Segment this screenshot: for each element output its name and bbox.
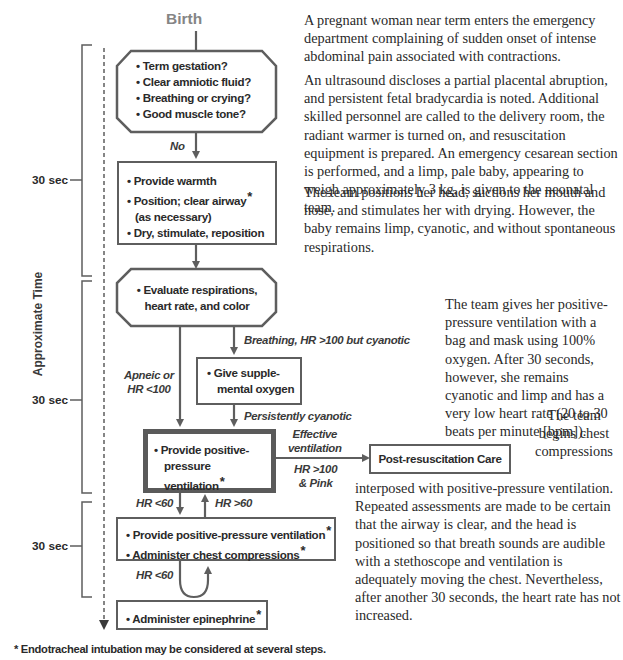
- no-label: No: [170, 139, 185, 153]
- case-paragraph-1: A pregnant woman near term enters the em…: [304, 11, 620, 66]
- case-paragraph-5: interposed with positive-pressure ventil…: [355, 479, 621, 625]
- assessment-item: • Breathing or crying?: [136, 90, 251, 106]
- effective-ventilation-label: Effective ventilation: [288, 427, 342, 455]
- footnote: * Endotracheal intubation may be conside…: [14, 643, 326, 655]
- ppv-compressions-box: • Provide positive-pressure ventilation*…: [116, 517, 336, 561]
- assessment-item: • Good muscle tone?: [136, 106, 251, 122]
- post-resuscitation-care-box: Post-resuscitation Care: [369, 444, 511, 474]
- assessment-item: • Clear amniotic fluid?: [136, 74, 251, 90]
- asterisk-icon: *: [247, 189, 252, 204]
- step-dry-stimulate: • Dry, stimulate, reposition: [127, 225, 275, 241]
- asterisk-icon: *: [256, 607, 261, 622]
- persistently-cyanotic-label: Persistently cyanotic: [244, 409, 352, 423]
- hr-under-60-label: HR <60: [136, 496, 173, 510]
- time-interval-1: 30 sec: [32, 173, 68, 187]
- case-paragraph-5-start: The team begins chest compressions: [528, 406, 620, 461]
- birth-label: Birth: [166, 10, 202, 28]
- assessment-questions: • Term gestation? • Clear amniotic fluid…: [136, 58, 251, 122]
- time-interval-2: 30 sec: [32, 393, 68, 407]
- breathing-cyanotic-label: Breathing, HR >100 but cyanotic: [244, 333, 410, 347]
- time-interval-3: 30 sec: [32, 539, 68, 553]
- time-axis-label: Approximate Time: [31, 264, 45, 384]
- evaluate-text: • Evaluate respirations, heart rate, and…: [117, 282, 277, 314]
- apneic-label: Apneic or HR <100: [124, 368, 174, 396]
- asterisk-icon: *: [220, 474, 225, 489]
- hr-over-100-pink-label: HR >100 & Pink: [294, 462, 337, 490]
- asterisk-icon: *: [326, 523, 331, 538]
- hr-over-60-label: HR >60: [215, 496, 252, 510]
- ppv-box: • Provide positive- pressure ventilation…: [143, 429, 276, 493]
- assessment-item: • Term gestation?: [136, 58, 251, 74]
- epinephrine-box: • Administer epinephrine*: [116, 600, 268, 630]
- step-as-necessary: (as necessary): [127, 209, 275, 225]
- supplemental-oxygen-box: • Give supple- mental oxygen: [196, 357, 302, 405]
- case-paragraph-3: The team positions her head, suctions he…: [304, 183, 620, 256]
- initial-steps-box: • Provide warmth • Position; clear airwa…: [117, 161, 277, 245]
- hr-under-60-label-2: HR <60: [136, 568, 173, 582]
- step-provide-warmth: • Provide warmth: [127, 173, 275, 189]
- asterisk-icon: *: [300, 543, 305, 558]
- step-position-airway: • Position; clear airway*: [127, 189, 275, 209]
